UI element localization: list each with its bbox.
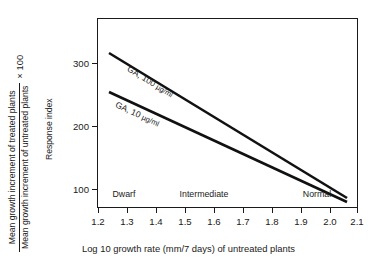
x-tick-label-2: 1.3	[120, 216, 133, 227]
x-tick-label-5: 1.6	[207, 216, 220, 227]
plot-area: 300 200 100 1.2 1.3 1.4 1.5 1.6 1.7 1.8 …	[97, 18, 358, 208]
x-tick-label-8: 1.9	[294, 216, 307, 227]
y-axis-title: Response index	[44, 98, 54, 160]
y-tick-label-300: 300	[73, 58, 89, 69]
x-tick-label-1: 1.2	[91, 216, 104, 227]
annotation-dwarf: Dwarf	[113, 189, 136, 199]
figure-response-index-vs-growth-rate: Mean growth increment of treated plants …	[0, 0, 377, 264]
annotation-intermediate: Intermediate	[180, 189, 229, 199]
annotation-normal: Normal	[303, 189, 331, 199]
series-line-ga-10	[109, 92, 347, 202]
x-tick-label-9: 2.0	[323, 216, 336, 227]
y-tick-label-100: 100	[73, 184, 89, 195]
x-tick-label-6: 1.7	[236, 216, 249, 227]
y-axis-fraction-label: Mean growth increment of treated plants …	[4, 55, 34, 252]
y-axis-fraction-denominator: Mean growth increment of untreated plant…	[20, 83, 31, 252]
x-tick-label-4: 1.5	[178, 216, 191, 227]
x-axis-title-wrap: Log 10 growth rate (mm/7 days) of untrea…	[0, 243, 377, 254]
x-tick-label-10: 2.1	[350, 216, 363, 227]
y-tick-label-200: 200	[73, 121, 89, 132]
y-axis-fraction-stack: Mean growth increment of treated plants …	[8, 83, 30, 252]
x-tick-label-3: 1.4	[149, 216, 162, 227]
x-tick-label-7: 1.8	[265, 216, 278, 227]
y-axis-fraction-numerator: Mean growth increment of treated plants	[8, 87, 19, 247]
y-axis-fraction-multiplier: × 100	[14, 55, 25, 79]
x-axis-title: Log 10 growth rate (mm/7 days) of untrea…	[82, 243, 295, 254]
